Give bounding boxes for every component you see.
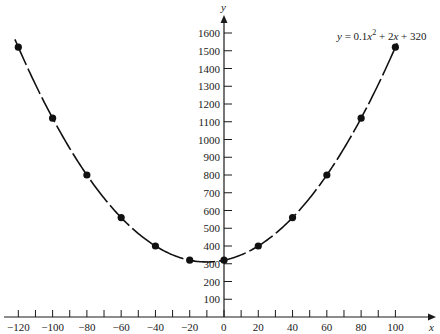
y-tick-label: 700 (204, 187, 221, 199)
equation-label: y = 0.1x2 + 2x + 320 (336, 28, 427, 42)
x-ticks: −120−100−80−60−40−20020406080100 (7, 310, 404, 333)
y-tick-label: 800 (204, 169, 221, 181)
data-point (289, 214, 296, 221)
y-tick-label: 1200 (198, 98, 221, 110)
y-tick-label: 1100 (198, 116, 220, 128)
y-tick-label: 1500 (198, 45, 221, 57)
y-tick-label: 500 (204, 222, 221, 234)
y-tick-label: 1400 (198, 63, 221, 75)
axes (4, 15, 436, 321)
y-ticks: 1002003004005006007008009001000110012001… (198, 27, 232, 305)
y-tick-label: 400 (204, 240, 221, 252)
x-tick-label: 100 (387, 321, 404, 333)
data-point (323, 171, 330, 178)
data-point (15, 44, 22, 51)
data-point (152, 242, 159, 249)
y-tick-label: 900 (204, 151, 221, 163)
data-point (220, 257, 227, 264)
y-axis-label: y (220, 1, 226, 13)
data-point (118, 214, 125, 221)
y-axis-arrow-icon (221, 15, 228, 23)
y-tick-label: 1300 (198, 80, 221, 92)
x-tick-label: 0 (221, 321, 227, 333)
x-axis-label: x (428, 321, 434, 333)
x-tick-label: −20 (181, 321, 199, 333)
x-tick-label: −40 (147, 321, 165, 333)
x-tick-label: −120 (7, 321, 30, 333)
y-tick-label: 1000 (198, 134, 221, 146)
parabola-chart: −120−100−80−60−40−20020406080100 1002003… (0, 0, 440, 334)
data-point (358, 115, 365, 122)
x-tick-label: 40 (287, 321, 299, 333)
x-tick-label: −80 (78, 321, 96, 333)
x-tick-label: 20 (253, 321, 265, 333)
y-tick-label: 1600 (198, 27, 221, 39)
x-tick-label: −100 (41, 321, 64, 333)
x-tick-label: −60 (113, 321, 131, 333)
data-point (186, 257, 193, 264)
data-point (83, 171, 90, 178)
x-tick-label: 80 (356, 321, 368, 333)
x-axis-arrow-icon (428, 314, 436, 321)
y-tick-label: 200 (204, 276, 221, 288)
y-tick-label: 300 (204, 258, 221, 270)
data-point (255, 242, 262, 249)
y-tick-label: 100 (204, 293, 221, 305)
data-point (49, 115, 56, 122)
data-point (392, 44, 399, 51)
x-tick-label: 60 (321, 321, 333, 333)
y-tick-label: 600 (204, 205, 221, 217)
